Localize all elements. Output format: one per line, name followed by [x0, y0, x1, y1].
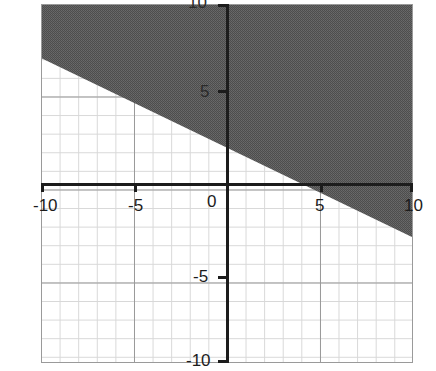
x-label--5: -5 — [128, 197, 143, 214]
y-label--10: -10 — [186, 352, 211, 369]
x-label-5: 5 — [315, 197, 324, 214]
y-axis — [226, 4, 229, 363]
y-tick-5 — [218, 90, 227, 93]
x-tick--10 — [41, 183, 44, 192]
y-label-5: 5 — [200, 83, 209, 100]
x-label-0: 0 — [207, 193, 216, 210]
x-tick--5 — [134, 183, 137, 192]
y-tick-10 — [218, 4, 227, 7]
x-label--10: -10 — [33, 197, 58, 214]
y-tick--10 — [218, 360, 227, 363]
coordinate-plane — [41, 4, 413, 363]
y-label--5: -5 — [193, 268, 208, 285]
y-label-10: 10 — [188, 0, 207, 11]
y-tick--5 — [218, 276, 227, 279]
x-tick-5 — [320, 183, 323, 192]
graph-screenshot: -10 -5 0 5 10 10 5 -5 -10 — [0, 0, 436, 371]
x-tick-10 — [410, 183, 413, 192]
x-label-10: 10 — [404, 197, 423, 214]
